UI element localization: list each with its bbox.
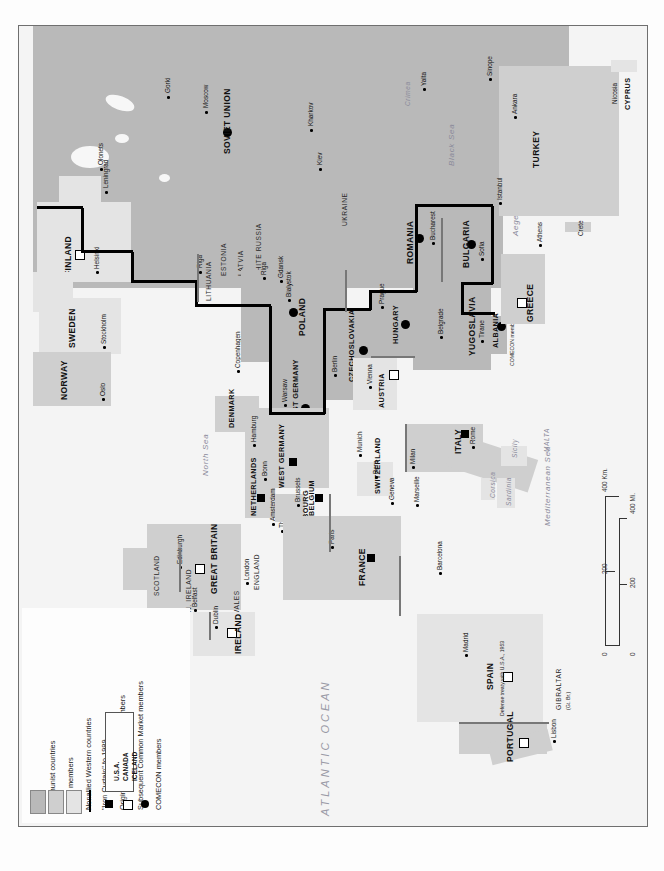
- finland-north: [59, 176, 101, 210]
- label-england: ENGLAND: [253, 554, 260, 590]
- other-nato-member-iceland: ICELAND: [131, 752, 138, 781]
- iron-curtain-segment-7: [195, 304, 271, 307]
- country-norway[interactable]: [33, 352, 111, 406]
- country-turkey[interactable]: [499, 66, 619, 216]
- label-ukraine: UKRAINE: [341, 192, 348, 226]
- label-atlantic-ocean: ATLANTIC OCEAN: [319, 679, 331, 816]
- citydot-stockholm: [103, 346, 106, 349]
- country-ireland[interactable]: [193, 612, 255, 656]
- border-poland-su: [345, 270, 347, 312]
- label-estonia: ESTONIA: [220, 243, 227, 276]
- citydot-berlin: [284, 404, 287, 407]
- iron-curtain-segment-8: [269, 306, 272, 414]
- common-market-marker-netherlands[interactable]: [257, 494, 265, 502]
- iron-curtain-segment-3: [81, 250, 133, 253]
- label-oslo: Oslo: [99, 383, 106, 396]
- iron-curtain-segment-2: [81, 208, 84, 252]
- scale-tick-km-400: [605, 496, 619, 497]
- label-scotland: SCOTLAND: [153, 555, 160, 596]
- citydot-yalta: [423, 88, 426, 91]
- label-brussels: Brussels: [294, 477, 301, 502]
- label-geneva: Geneva: [388, 478, 395, 500]
- annotation-gibraltar-gt-br: (Gt. Br.): [565, 692, 571, 710]
- legend-swatch-nonallied[interactable]: [66, 790, 82, 814]
- iron-curtain-segment-19: [461, 312, 495, 315]
- label-nicosia: Nicosia: [611, 83, 618, 104]
- label-gdansk: Riga: [260, 262, 267, 275]
- label-denmark: DENMARK: [227, 388, 236, 428]
- label-albania: ALBANIA: [491, 313, 500, 348]
- citydot-bern: [375, 476, 378, 479]
- country-greece[interactable]: [501, 254, 545, 324]
- scale-line-mi: [619, 518, 620, 646]
- label-cyprus: CYPRUS: [623, 78, 632, 110]
- citydot-leningrad: [105, 191, 108, 194]
- scale-tick-label-mi-0: 0: [629, 652, 636, 656]
- label-west-germany: WEST GERMANY: [277, 424, 286, 488]
- legend-swatch-communist[interactable]: [30, 790, 46, 814]
- iron-curtain-segment-5: [131, 280, 197, 283]
- label-bonn: Bonn: [261, 461, 268, 476]
- citydot-barcelona: [439, 572, 442, 575]
- label-bern: Bern: [372, 461, 379, 475]
- map-page: SOVIET UNION WHITE RUSSIA UKRAINE Moscow…: [0, 0, 664, 871]
- legend-symbol-comecon[interactable]: [141, 800, 149, 808]
- country-finland[interactable]: [37, 202, 131, 282]
- country-cyprus[interactable]: [611, 60, 637, 72]
- citydot-vienna: [369, 386, 372, 389]
- common-market-marker-austria[interactable]: [389, 370, 399, 380]
- legend-symbol-iron-curtain[interactable]: [89, 790, 91, 812]
- label-tirane: Tirane: [478, 320, 485, 338]
- label-romania: ROMANIA: [405, 221, 415, 264]
- citydot-geneva: [391, 502, 394, 505]
- label-netherlands: NETHERLANDS: [249, 457, 258, 516]
- label-france: FRANCE: [357, 548, 367, 586]
- citydot-belgrade: [440, 336, 443, 339]
- citydot-helsinki: [96, 271, 99, 274]
- citydot-bialystok: [280, 280, 283, 283]
- citydot-gdansk: [263, 277, 266, 280]
- scale-label-km: 400 Km.: [601, 468, 608, 492]
- label-milan: Milan: [409, 449, 416, 464]
- citydot-bonn: [264, 478, 267, 481]
- label-lisbon: Lisbon: [550, 719, 557, 738]
- common-market-marker-belgium[interactable]: [315, 494, 323, 502]
- citydot-bucharest: [432, 242, 435, 245]
- border-spain-portugal: [459, 722, 549, 724]
- comecon-marker-hungary[interactable]: [401, 320, 410, 329]
- citydot-gorki: [167, 96, 170, 99]
- legend-symbol-original-common-market[interactable]: [105, 800, 113, 808]
- label-norway: NORWAY: [59, 360, 69, 400]
- label-ireland: IRELAND: [233, 613, 243, 654]
- legend-symbol-subsequent-common-market[interactable]: [123, 800, 133, 810]
- citydot-madrid: [465, 654, 468, 657]
- citydot-riga: [199, 271, 202, 274]
- label-sweden: SWEDEN: [67, 308, 77, 348]
- label-yalta: Yalta: [420, 72, 427, 86]
- other-nato-member-canada: CANADA: [122, 752, 129, 781]
- scale-tick-label-km-200: 200: [601, 563, 608, 574]
- comecon-marker-czechoslovakia[interactable]: [359, 346, 368, 355]
- label-sardinia: Sardinia: [505, 477, 512, 506]
- label-mediterranean-sea: Mediterranean Sea: [543, 446, 552, 526]
- iron-curtain-segment-18: [461, 282, 464, 314]
- common-market-marker-france[interactable]: [367, 554, 375, 562]
- scale-tick-mi-400: [619, 518, 627, 519]
- common-market-marker-portugal[interactable]: [519, 738, 529, 748]
- border-italy-austria: [405, 424, 407, 472]
- label-finland: FINLAND: [63, 236, 73, 276]
- common-market-marker-great-britain[interactable]: [195, 564, 205, 574]
- iron-curtain-segment-1: [37, 206, 83, 209]
- citydot-dublin: [215, 626, 218, 629]
- common-market-marker-west-germany[interactable]: [289, 458, 297, 466]
- label-marseille: Marseille: [413, 476, 420, 502]
- citydot-kiev: [319, 168, 322, 171]
- country-france[interactable]: [283, 516, 401, 600]
- iron-curtain-segment-10: [323, 308, 326, 414]
- citydot-athens: [539, 244, 542, 247]
- country-austria[interactable]: [353, 358, 397, 410]
- sweden-north: [33, 272, 73, 312]
- citydot-tirane: [481, 340, 484, 343]
- legend-swatch-nato[interactable]: [48, 790, 64, 814]
- country-spain[interactable]: [417, 614, 543, 722]
